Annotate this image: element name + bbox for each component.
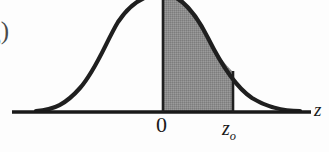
- axis-label-origin: 0: [156, 114, 167, 136]
- axis-label-z: z: [314, 100, 321, 119]
- z-critical-subscript: o: [230, 129, 236, 143]
- clipped-subscript: o: [0, 31, 1, 48]
- clipped-expression-fragment: o): [0, 18, 9, 48]
- z-critical-base: z: [222, 117, 230, 139]
- axis-label-z-critical: zo: [222, 118, 236, 142]
- normal-distribution-figure: o) 0 zo z: [0, 0, 329, 152]
